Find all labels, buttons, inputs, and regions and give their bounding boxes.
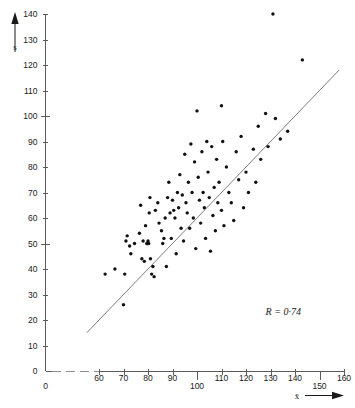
data-point [197, 176, 200, 179]
data-point [217, 181, 220, 184]
data-point [190, 191, 193, 194]
data-point [259, 158, 262, 161]
data-point [279, 137, 282, 140]
data-point [301, 58, 304, 61]
data-point [286, 130, 289, 133]
data-point [147, 242, 150, 245]
data-point [220, 209, 223, 212]
data-point [152, 275, 155, 278]
x-axis-arrow-head-icon [332, 392, 344, 399]
x-tick-label: 130 [263, 373, 277, 383]
data-point [205, 140, 208, 143]
data-point [204, 237, 207, 240]
data-point [123, 272, 126, 275]
data-point [160, 229, 163, 232]
data-point [186, 211, 189, 214]
y-tick-label: 30 [28, 290, 38, 300]
data-point [156, 201, 159, 204]
data-point [235, 150, 238, 153]
data-point [128, 244, 131, 247]
data-point [194, 247, 197, 250]
data-point [200, 150, 203, 153]
y-tick-label: 130 [23, 35, 37, 45]
data-point [214, 229, 217, 232]
data-point [168, 211, 171, 214]
data-point [244, 170, 247, 173]
y-tick-label: 60 [28, 213, 38, 223]
x-tick-label: 100 [190, 381, 204, 391]
y-tick-label: 90 [28, 137, 38, 147]
data-point [232, 219, 235, 222]
data-point [173, 216, 176, 219]
data-point [178, 173, 181, 176]
data-point [125, 234, 128, 237]
data-point [141, 239, 144, 242]
data-point [206, 170, 209, 173]
x-tick-label: 60 [94, 373, 104, 383]
data-point [174, 252, 177, 255]
data-point [161, 242, 164, 245]
y-tick-label: 20 [28, 315, 38, 325]
data-point [184, 201, 187, 204]
data-point [266, 145, 269, 148]
data-point [170, 237, 173, 240]
data-point [264, 112, 267, 115]
data-point [210, 145, 213, 148]
data-point [271, 12, 274, 15]
data-point [151, 265, 154, 268]
data-point [247, 191, 250, 194]
data-point [208, 196, 211, 199]
data-point [242, 206, 245, 209]
data-points-group [103, 12, 304, 306]
data-point [222, 224, 225, 227]
x-tick-label: 110 [215, 373, 229, 383]
data-point [230, 201, 233, 204]
data-point [209, 249, 212, 252]
x-tick-label: 140 [288, 373, 302, 383]
data-point [239, 135, 242, 138]
data-point [274, 117, 277, 120]
data-point [188, 227, 191, 230]
data-point [138, 232, 141, 235]
x-tick-label: 120 [239, 373, 253, 383]
data-point [139, 204, 142, 207]
data-point [212, 186, 215, 189]
data-point [225, 165, 228, 168]
data-point [129, 252, 132, 255]
y-axis-label: s [13, 42, 17, 52]
x-axis-label: x̄ [295, 391, 300, 401]
data-point [221, 140, 224, 143]
data-point [150, 272, 153, 275]
data-point [189, 142, 192, 145]
y-tick-label: 10 [28, 341, 38, 351]
data-point [171, 198, 174, 201]
data-point [163, 216, 166, 219]
data-point [182, 239, 185, 242]
data-point [166, 196, 169, 199]
data-point [183, 153, 186, 156]
data-point [199, 221, 202, 224]
data-point [167, 181, 170, 184]
y-axis-label-group: s [11, 12, 18, 52]
data-point [203, 206, 206, 209]
data-point [216, 201, 219, 204]
correlation-annotation: R = 0·74 [265, 306, 301, 317]
y-tick-label: 50 [28, 239, 38, 249]
x-tick-label: 160 [337, 373, 351, 383]
plot-canvas: 0102030405060708090100110120130140 06070… [0, 0, 355, 408]
data-point [149, 257, 152, 260]
y-tick-label: 110 [24, 86, 38, 96]
x-tick-label: 90 [168, 373, 178, 383]
x-tick-label: 70 [119, 373, 129, 383]
data-point [148, 211, 151, 214]
x-tick-label: 0 [43, 381, 48, 391]
data-point [165, 265, 168, 268]
data-point [124, 239, 127, 242]
y-tick-label: 70 [28, 188, 38, 198]
regression-line [87, 70, 339, 333]
x-tick-label: 150 [312, 381, 326, 391]
data-point [122, 303, 125, 306]
data-point [193, 160, 196, 163]
data-point [143, 260, 146, 263]
data-point [198, 198, 201, 201]
